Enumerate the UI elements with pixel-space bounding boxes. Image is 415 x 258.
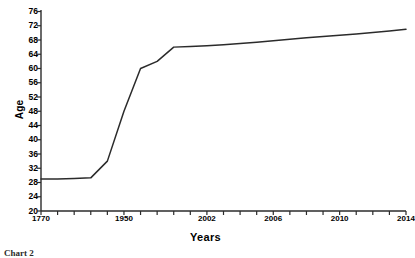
x-axis-tick-label: 2006 [264, 214, 282, 223]
axis-lines [41, 10, 406, 211]
x-axis-title: Years [0, 231, 411, 243]
x-axis-tick-label: 1770 [32, 214, 50, 223]
x-axis-tick-label: 2010 [331, 214, 349, 223]
x-axis-tick-label: 2014 [397, 214, 415, 223]
x-axis-tick-label: 1950 [115, 214, 133, 223]
data-series-line [41, 29, 406, 179]
x-axis-tick-label: 2002 [198, 214, 216, 223]
figure-caption: Chart 2 [4, 248, 34, 258]
